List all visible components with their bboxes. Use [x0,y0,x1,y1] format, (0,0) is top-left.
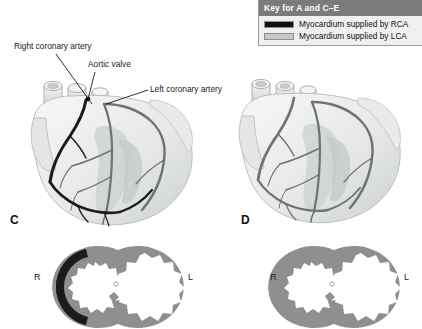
legend-swatch-rca [264,21,294,28]
legend-item-rca: Myocardium supplied by RCA [259,18,422,30]
legend-swatch-lca [264,33,294,40]
panel-letter-d: D [241,213,250,227]
label-aortic-valve: Aortic valve [88,60,131,69]
panel-d-cross-section [268,246,401,328]
legend-label-lca: Myocardium supplied by LCA [299,32,407,41]
panel-c-heart [31,81,192,226]
panel-c-marker-right: R [34,272,41,282]
figure-canvas: Key for A and C–E Myocardium supplied by… [0,0,422,329]
panel-c-marker-left: L [188,272,193,282]
panel-d-marker-right: R [270,272,277,282]
legend-items: Myocardium supplied by RCA Myocardium su… [259,16,422,45]
panel-c-cross-section [52,246,185,328]
legend-title: Key for A and C–E [259,0,422,16]
panel-letter-c: C [10,213,19,227]
legend-item-lca: Myocardium supplied by LCA [259,30,422,42]
panel-d-heart [239,79,400,222]
legend-panel: Key for A and C–E Myocardium supplied by… [258,0,422,46]
label-left-coronary-artery: Left coronary artery [150,85,222,94]
legend-label-rca: Myocardium supplied by RCA [299,20,408,29]
label-right-coronary-artery: Right coronary artery [14,42,91,51]
panel-d-marker-left: L [404,272,409,282]
